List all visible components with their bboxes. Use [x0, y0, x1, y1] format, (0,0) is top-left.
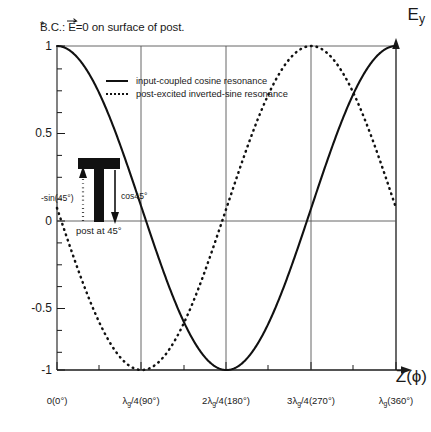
plot-canvas: [0, 0, 431, 432]
x-tick-0-tail: (0°): [52, 395, 67, 406]
legend-swatch-solid-icon: [104, 76, 130, 86]
y-tick-label-neg1: -1: [18, 364, 52, 376]
y-tick-label-1: 1: [18, 40, 52, 52]
figure-root: * B.C.: E=0 on surface of post. Ey Z(ϕ): [0, 0, 431, 432]
legend-swatch-dotted-icon: [104, 89, 130, 99]
cos-component-arrow: [111, 170, 119, 224]
x-tick-label-0: 0(0°): [32, 396, 82, 408]
horizontal-reference-lines: [57, 46, 396, 221]
legend-label-solid: input-coupled cosine resonance: [136, 76, 267, 86]
legend-item-dotted: post-excited inverted-sine resonance: [104, 87, 288, 100]
legend: input-coupled cosine resonance post-exci…: [104, 74, 288, 100]
cos-component-label: cos45°: [121, 192, 147, 201]
sin-component-label: -sin(45°): [41, 194, 74, 203]
y-tick-label-neg0-5: -0.5: [18, 302, 52, 314]
post-caption-label: post at 45°: [76, 226, 122, 236]
x-tick-label-90: λg/4(90°): [111, 396, 171, 408]
x-axis-ticks: [57, 362, 396, 370]
x-tick-label-270: 3λg/4(270°): [277, 396, 345, 408]
y-tick-label-0: 0: [18, 215, 52, 227]
x-tick-360-tail: (360°): [387, 395, 413, 406]
y-tick-label-0-5: 0.5: [18, 127, 52, 139]
x-tick-label-180: 2λg/4(180°): [192, 396, 260, 408]
sin-component-arrow: [79, 166, 87, 221]
x-tick-270-tail: /4(270°): [301, 395, 335, 406]
legend-item-solid: input-coupled cosine resonance: [104, 74, 288, 87]
x-tick-label-360: λg(360°): [366, 396, 426, 408]
legend-label-dotted: post-excited inverted-sine resonance: [136, 89, 288, 99]
x-tick-90-tail: /4(90°): [131, 395, 160, 406]
x-tick-180-tail: /4(180°): [216, 395, 250, 406]
